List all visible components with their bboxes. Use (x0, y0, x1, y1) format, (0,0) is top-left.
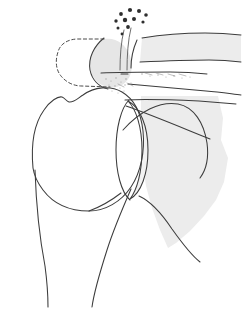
anatomy-figure-root (0, 0, 242, 315)
stipple-dot (105, 78, 106, 79)
stipple-dot (111, 90, 112, 91)
stipple-dot (108, 84, 109, 85)
calcific-deposit-dot (144, 13, 148, 17)
stipple-dot (141, 73, 143, 75)
calcific-deposit-dot (114, 19, 117, 22)
clavicle-body-shape (140, 33, 241, 62)
anatomy-figure-svg (0, 0, 242, 315)
stipple-dot (120, 81, 121, 82)
calcific-deposit-dot (132, 17, 136, 21)
stipple-dot (110, 80, 111, 81)
stipple-dot (173, 75, 174, 76)
calcific-deposit-dot (121, 33, 124, 36)
stipple-dot (189, 76, 190, 77)
calcific-deposit-dot (117, 27, 120, 30)
stipple-dot (157, 74, 158, 75)
calcific-deposit-dot (126, 25, 130, 29)
stipple-dot (115, 77, 116, 78)
calcific-deposit-dot (123, 18, 127, 22)
calcific-deposit-dot (119, 12, 123, 16)
stipple-dot (165, 76, 166, 77)
stipple-dot (119, 87, 120, 88)
stipple-dot (125, 78, 127, 80)
stipple-dot (130, 82, 131, 83)
stipple-dot (124, 84, 125, 85)
calcific-deposit-dot (141, 20, 144, 23)
stipple-dot (123, 90, 124, 91)
stipple-dot (114, 85, 115, 86)
stipple-dot (118, 93, 119, 94)
stipple-dot (181, 77, 182, 78)
calcific-deposit-dot (137, 9, 141, 13)
calcific-deposit-dot (128, 8, 132, 12)
stipple-dot (149, 75, 150, 76)
